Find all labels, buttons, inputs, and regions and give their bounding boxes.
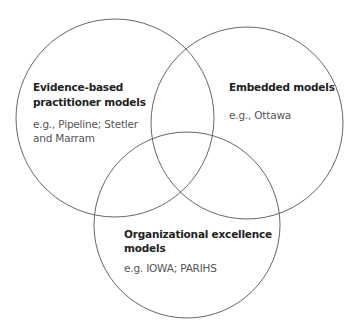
circle-organizational-excellence — [94, 132, 280, 318]
venn-diagram — [0, 0, 356, 331]
embedded-title: Embedded models — [229, 80, 335, 94]
evidence-based-example-line-1: e.g., Pipeline; Stetler — [33, 117, 138, 131]
circle-embedded — [151, 27, 343, 219]
evidence-based-example-line-2: and Marram — [33, 131, 95, 145]
evidence-based-title-line-1: Evidence-based — [33, 80, 123, 94]
org-excellence-title-line-2: models — [124, 241, 165, 255]
org-excellence-example: e.g. IOWA; PARIHS — [124, 261, 217, 275]
evidence-based-title-line-2: practitioner models — [33, 95, 146, 109]
org-excellence-title-line-1: Organizational excellence — [124, 227, 272, 241]
embedded-example: e.g., Ottawa — [229, 108, 291, 122]
